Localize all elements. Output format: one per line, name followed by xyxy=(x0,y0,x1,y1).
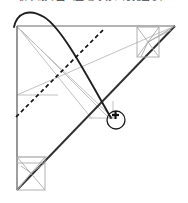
corner-square-top-right xyxy=(137,26,175,57)
main-triangle xyxy=(17,26,175,190)
figure-svg xyxy=(0,0,188,203)
corner-square-bottom-left xyxy=(17,157,45,190)
cursor-marker-group[interactable] xyxy=(104,107,128,131)
diagram-canvas: 折り紙の図（上端で切れた見出し） xyxy=(0,0,188,203)
corner-square-bl-spoke-b xyxy=(31,163,45,173)
triangle-hypotenuse xyxy=(17,26,175,190)
gray-edge-to-marker xyxy=(21,30,110,119)
corner-square-bl-spoke-a xyxy=(17,173,31,190)
cursor-hit-area[interactable] xyxy=(104,107,128,131)
